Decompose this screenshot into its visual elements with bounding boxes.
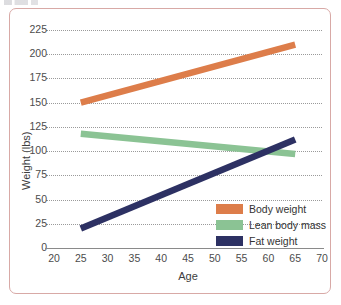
legend-label: Lean body mass: [249, 219, 326, 231]
chart-legend: Body weightLean body massFat weight: [216, 201, 328, 249]
legend-swatch: [216, 204, 243, 214]
legend-item[interactable]: Fat weight: [216, 233, 328, 248]
legend-label: Body weight: [249, 203, 306, 215]
legend-swatch: [216, 236, 243, 246]
legend-item[interactable]: Body weight: [216, 201, 328, 216]
legend-swatch: [216, 220, 243, 230]
plot-series-layer: [0, 0, 341, 305]
line-chart: Weight (lbs) 2252001751501251007550250 2…: [0, 0, 341, 305]
legend-item[interactable]: Lean body mass: [216, 217, 328, 232]
legend-label: Fat weight: [249, 235, 297, 247]
series-line: [81, 45, 295, 103]
